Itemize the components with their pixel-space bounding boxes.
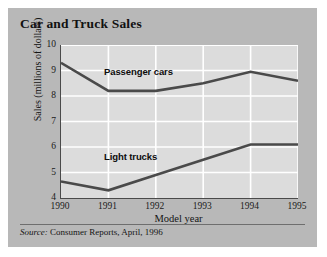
y-tick-label: 6	[34, 142, 56, 152]
source-text: Consumer Reports, April, 1996	[50, 227, 163, 237]
y-tick-label: 8	[34, 91, 56, 101]
series-line	[61, 144, 298, 190]
chart-canvas	[61, 45, 298, 198]
x-axis-title: Model year	[60, 213, 297, 224]
y-tick-label: 9	[34, 66, 56, 76]
gridlines	[61, 45, 298, 173]
x-tick-label: 1993	[182, 202, 222, 212]
series-label-passenger-cars: Passenger cars	[104, 66, 173, 77]
y-axis-ticks: 45678910	[30, 45, 56, 198]
chart-card: Car and Truck Sales Sales (millions of d…	[8, 8, 317, 247]
x-tick-label: 1992	[135, 202, 175, 212]
source-label: Source:	[20, 227, 48, 237]
series-line	[61, 63, 298, 91]
series-lines	[61, 63, 298, 191]
x-tick-label: 1991	[87, 202, 127, 212]
y-tick-label: 7	[34, 117, 56, 127]
x-tick-label: 1994	[230, 202, 270, 212]
x-axis-ticks: 199019911992199319941995	[60, 200, 297, 214]
source-divider	[20, 224, 305, 225]
x-tick-label: 1995	[277, 202, 317, 212]
y-tick-label: 10	[34, 40, 56, 50]
source-note: Source: Consumer Reports, April, 1996	[20, 227, 163, 237]
y-tick-label: 5	[34, 168, 56, 178]
plot-area	[60, 45, 298, 199]
series-label-light-trucks: Light trucks	[104, 151, 157, 162]
x-tick-label: 1990	[40, 202, 80, 212]
